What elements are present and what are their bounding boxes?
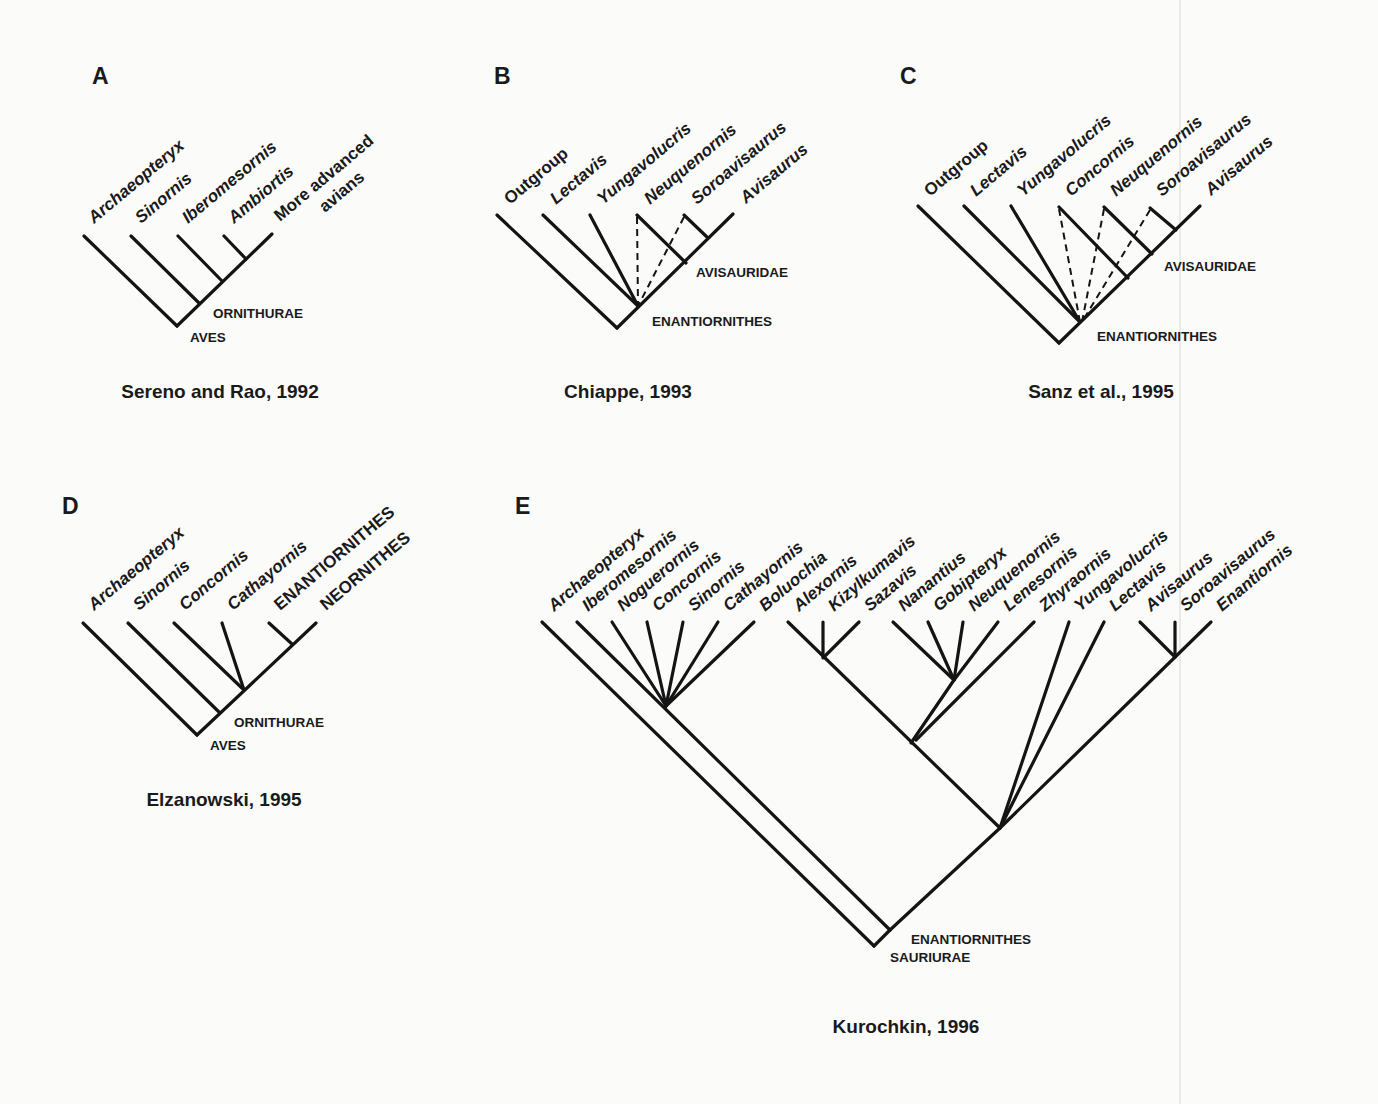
branch-line	[84, 236, 177, 326]
branch-line	[928, 622, 954, 680]
clade-label: AVISAURIDAE	[1164, 259, 1256, 274]
branch-line	[128, 623, 220, 713]
panel-letter: C	[900, 63, 917, 89]
panel-letter: D	[62, 493, 79, 519]
panel-a: A ArchaeopteryxSinornisIberomesornisAmbi…	[84, 63, 378, 402]
tree-branches	[542, 622, 1211, 946]
panel-letter: A	[92, 63, 109, 89]
branch-line	[543, 215, 638, 306]
panel-caption: Kurochkin, 1996	[833, 1016, 980, 1037]
clade-label: ORNITHURAE	[234, 715, 324, 730]
branch-line	[637, 215, 686, 263]
branch-line	[1059, 207, 1128, 278]
branch-line	[918, 206, 1059, 343]
panel-caption: Sereno and Rao, 1992	[121, 381, 318, 402]
taxon-labels: ArchaeopteryxIberomesornisNoguerornisCon…	[544, 523, 1297, 616]
clade-label: ENANTIORNITHES	[1097, 329, 1217, 344]
branch-line	[874, 930, 890, 946]
panel-d: D ArchaeopteryxSinornisConcornisCathayor…	[62, 493, 414, 810]
branch-line	[178, 236, 222, 281]
branch-line	[1150, 208, 1176, 230]
clade-label: ENANTIORNITHES	[652, 314, 772, 329]
branch-line	[788, 622, 1000, 828]
branch-line	[1000, 622, 1069, 828]
clade-label: ORNITHURAE	[213, 306, 303, 321]
clade-label: AVES	[210, 738, 246, 753]
panel-caption: Sanz et al., 1995	[1028, 381, 1174, 402]
clade-label: AVES	[190, 330, 226, 345]
branch-line	[911, 680, 954, 743]
branch-line	[577, 622, 890, 930]
clade-labels: ORNITHURAEAVES	[210, 715, 324, 753]
tree-branches	[918, 206, 1200, 343]
branch-line	[684, 215, 708, 238]
panel-letter: B	[494, 63, 511, 89]
branch-line	[890, 828, 1000, 930]
branch-line	[1000, 622, 1211, 828]
branch-line	[542, 622, 874, 946]
panel-letter: E	[515, 493, 530, 519]
branch-line	[1104, 207, 1152, 254]
panel-c: C OutgroupLectavisYungavolucrisConcornis…	[900, 63, 1277, 402]
branch-line	[893, 622, 954, 680]
cladogram-figure: A ArchaeopteryxSinornisIberomesornisAmbi…	[0, 0, 1378, 1104]
branch-line	[1000, 622, 1104, 828]
branch-line	[590, 215, 638, 306]
taxon-labels: ArchaeopteryxSinornisConcornisCathayorni…	[84, 502, 414, 614]
clade-labels: ORNITHURAEAVES	[190, 306, 303, 345]
branch-line	[916, 622, 1034, 740]
clade-label: AVISAURIDAE	[696, 265, 788, 280]
uncertain-branch-line	[638, 217, 684, 306]
branch-line	[224, 236, 246, 259]
clade-label: SAURIURAE	[890, 950, 970, 965]
panel-caption: Chiappe, 1993	[564, 381, 692, 402]
branch-line	[825, 622, 859, 656]
branch-line	[1140, 622, 1175, 657]
panel-caption: Elzanowski, 1995	[146, 789, 302, 810]
clade-label: ENANTIORNITHES	[911, 932, 1031, 947]
uncertain-branch-line	[637, 217, 638, 306]
taxon-labels: OutgroupLectavisYungavolucrisConcornisNe…	[920, 110, 1276, 200]
branch-line	[269, 623, 292, 644]
taxon-labels: ArchaeopteryxSinornisIberomesornisAmbior…	[84, 131, 378, 228]
clade-labels: ENANTIORNITHESSAURIURAE	[890, 932, 1031, 965]
branch-line	[83, 623, 197, 735]
taxon-labels: OutgroupLectavisYungavolucrisNeuquenorni…	[500, 118, 811, 208]
panel-e: E ArchaeopteryxIberomesornisNoguerornisC…	[515, 493, 1296, 1037]
panel-b: B OutgroupLectavisYungavolucrisNeuquenor…	[494, 63, 812, 402]
